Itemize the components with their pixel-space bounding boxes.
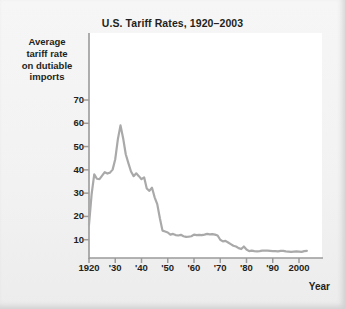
chart-series (89, 125, 307, 251)
chart-axes (84, 33, 323, 263)
chart-figure: U.S. Tariff Rates, 1920–2003 Average tar… (0, 0, 345, 309)
chart-plot-svg (0, 0, 345, 309)
